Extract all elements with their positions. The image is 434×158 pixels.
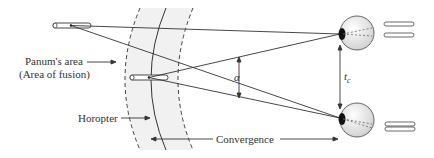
lines-of-sight	[71, 26, 340, 119]
binocular-vision-diagram: Panum's area (Area of fusion) Horopter C…	[0, 0, 434, 158]
interocular-distance-label: tc	[344, 70, 351, 87]
alpha-label: α	[234, 71, 240, 83]
right-eye-retinal-images	[385, 122, 415, 131]
tc-subscript: c	[347, 76, 351, 85]
horopter-label: Horopter	[78, 112, 118, 124]
interocular-distance-arrow	[338, 45, 342, 109]
right-eye	[339, 103, 375, 137]
left-eye	[339, 16, 375, 50]
label-arrows	[87, 60, 338, 141]
convergence-label: Convergence	[216, 133, 274, 145]
area-of-fusion-label: (Area of fusion)	[19, 68, 90, 80]
panums-area-label: Panum's area	[25, 55, 83, 67]
left-eye-retinal-images	[384, 22, 414, 37]
